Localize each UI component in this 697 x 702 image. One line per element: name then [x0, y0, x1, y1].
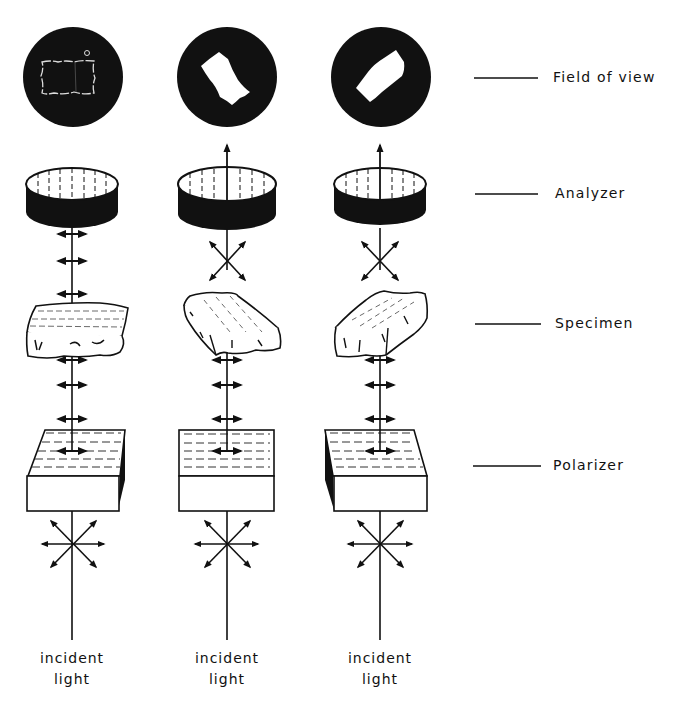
field-of-view-bright	[331, 27, 431, 127]
polarizer-block	[325, 430, 427, 511]
incident-light-line1: incident	[22, 648, 122, 669]
incident-light-line2: light	[22, 669, 122, 690]
field-of-view-bright	[177, 27, 277, 127]
polarizer-block	[179, 430, 274, 511]
incident-light-label-3: incident light	[330, 648, 430, 690]
incident-light-line2: light	[177, 669, 277, 690]
field-of-view-dark	[23, 27, 123, 127]
polarization-diagram	[0, 0, 697, 702]
label-specimen: Specimen	[555, 315, 634, 331]
specimen-block	[184, 292, 281, 355]
incident-light-line1: incident	[330, 648, 430, 669]
label-field-of-view: Field of view	[553, 69, 656, 85]
column-1	[23, 27, 128, 640]
label-leader-lines	[473, 78, 541, 466]
incident-light-label-1: incident light	[22, 648, 122, 690]
specimen-block	[335, 291, 428, 357]
specimen-block	[27, 303, 128, 358]
label-analyzer: Analyzer	[555, 185, 626, 201]
column-3	[325, 27, 431, 640]
unpolarized-light-star	[42, 521, 104, 567]
incident-light-label-2: incident light	[177, 648, 277, 690]
analyzer-disc	[178, 167, 276, 230]
analyzer-disc	[26, 168, 118, 228]
label-polarizer: Polarizer	[553, 457, 624, 473]
incident-light-line2: light	[330, 669, 430, 690]
polarizer-block	[27, 430, 125, 511]
analyzer-disc	[334, 167, 426, 225]
column-2	[177, 27, 281, 640]
incident-light-line1: incident	[177, 648, 277, 669]
